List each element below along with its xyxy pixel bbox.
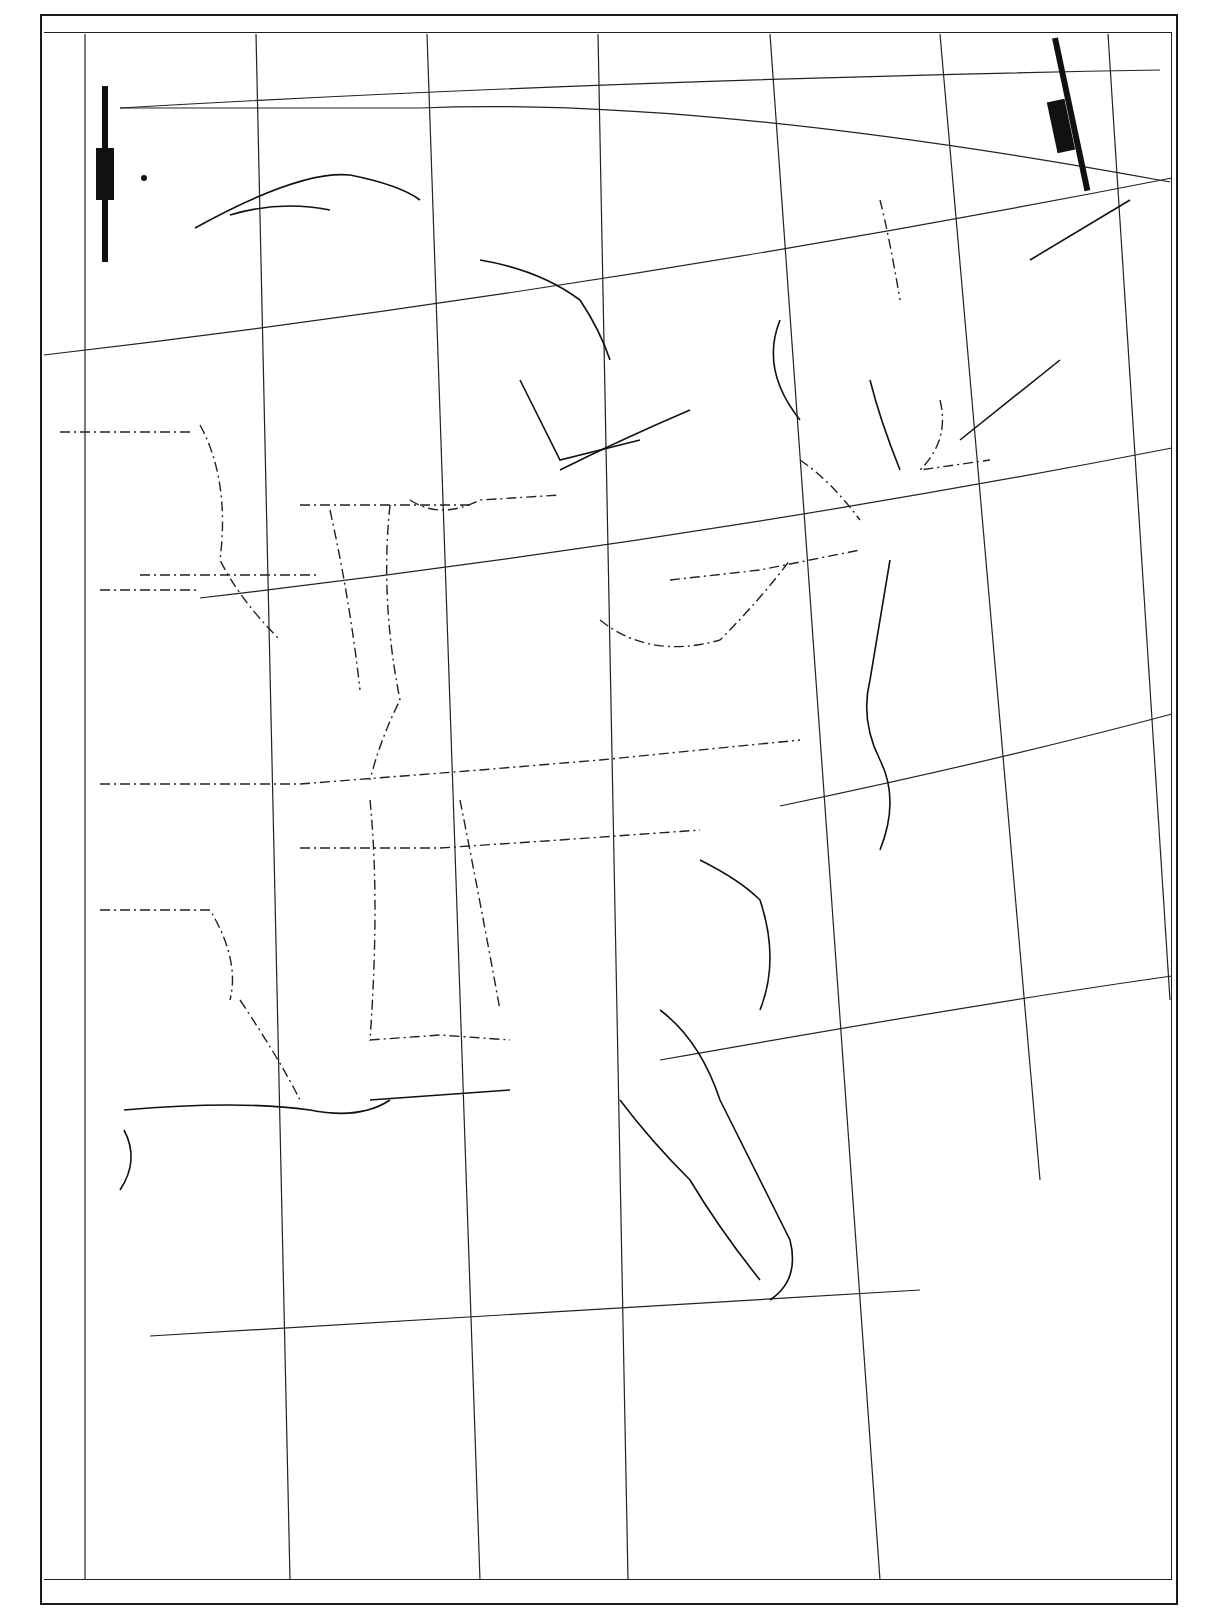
station-dot bbox=[141, 175, 147, 181]
map-graticule bbox=[0, 0, 1218, 1624]
normal-box bbox=[96, 148, 114, 200]
